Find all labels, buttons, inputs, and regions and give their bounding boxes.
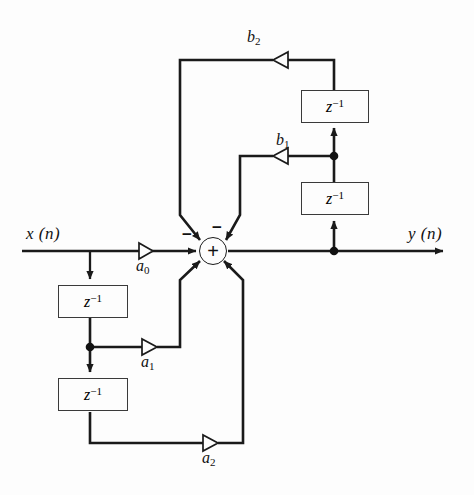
junction-dot-a1	[86, 343, 95, 352]
output-label-yn: y (n)	[408, 224, 442, 244]
adder-plus-symbol: +	[207, 241, 219, 261]
figure-canvas: z−1 z−1 z−1 z−1 + − − x (n) y (n) a0 a1 …	[0, 0, 474, 495]
delay-block-feedforward-1[interactable]: z−1	[58, 285, 128, 318]
delay-label: z−1	[84, 292, 102, 311]
gain-label-b2: b2	[247, 28, 261, 47]
minus-sign-b2-input: −	[182, 226, 192, 243]
gain-b2-triangle	[273, 52, 288, 68]
summing-node[interactable]: +	[199, 237, 227, 265]
delay-block-feedback-1[interactable]: z−1	[301, 90, 369, 123]
wire-b1-to-adder	[226, 156, 273, 240]
input-label-xn: x (n)	[26, 224, 60, 244]
delay-block-feedforward-2[interactable]: z−1	[58, 378, 128, 411]
delay-label: z−1	[326, 189, 344, 208]
wire-ff-delay2-out	[90, 412, 203, 443]
delay-block-feedback-2[interactable]: z−1	[301, 182, 369, 215]
minus-sign-b1-input: −	[212, 219, 222, 236]
delay-label: z−1	[84, 385, 102, 404]
wire-fb-delay1-out	[288, 60, 334, 90]
junction-dot-output	[330, 247, 339, 256]
delay-label: z−1	[326, 97, 344, 116]
gain-label-a1: a1	[141, 353, 155, 372]
gain-label-a0: a0	[136, 257, 150, 276]
wire-a1-to-adder	[157, 261, 200, 347]
wire-b2-rail	[180, 60, 273, 240]
junction-dot-b1	[330, 152, 339, 161]
gain-label-a2: a2	[202, 449, 216, 468]
gain-b1-triangle	[273, 148, 288, 164]
wire-a2-rail	[218, 261, 243, 443]
gain-label-b1: b1	[276, 131, 290, 150]
signal-flow-diagram	[0, 0, 474, 495]
